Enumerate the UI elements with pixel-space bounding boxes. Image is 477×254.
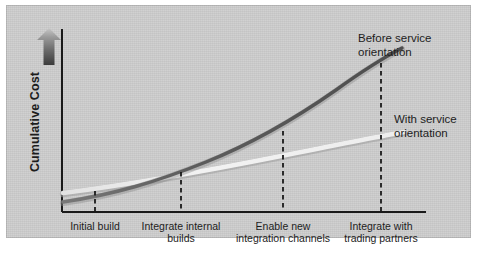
annotation-before-service-orientation: Before service orientation	[358, 32, 432, 59]
series-line-with-service	[63, 132, 404, 193]
chart-panel: Cumulative Cost	[6, 5, 471, 238]
annotation-with-service-orientation: With service orientation	[394, 113, 457, 140]
series-line-before-service-shadow	[63, 49, 402, 203]
series-line-before-service	[63, 48, 402, 202]
figure-container: Cumulative Cost	[0, 0, 477, 254]
x-axis-caption-integrate-with-trading-partners: Integrate with trading partners	[326, 220, 436, 244]
